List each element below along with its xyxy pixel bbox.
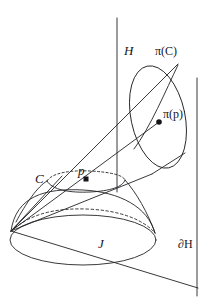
label-c: C	[35, 172, 44, 185]
label-p: p	[78, 164, 85, 177]
dome-outline-arc	[11, 190, 155, 233]
label-h: H	[124, 44, 133, 57]
figure-container: H π(C) π(p) C p J ∂H	[0, 0, 211, 302]
label-dh: ∂H	[178, 238, 193, 250]
point-marker-pi-p	[156, 119, 162, 125]
projected-ellipse-pi-c	[121, 61, 195, 174]
dome-base-ellipse	[10, 215, 156, 265]
label-j: J	[98, 237, 104, 250]
label-pi-c: π(C)	[155, 45, 177, 57]
projection-ray-lower	[11, 231, 198, 288]
projection-ray-upper	[11, 64, 178, 231]
dome-back-rim-dashed	[11, 209, 155, 233]
geometry-diagram-svg	[0, 0, 211, 302]
dome-crease-right	[125, 180, 155, 233]
cone-edge-right	[152, 153, 185, 174]
label-pi-p: π(p)	[163, 108, 183, 120]
